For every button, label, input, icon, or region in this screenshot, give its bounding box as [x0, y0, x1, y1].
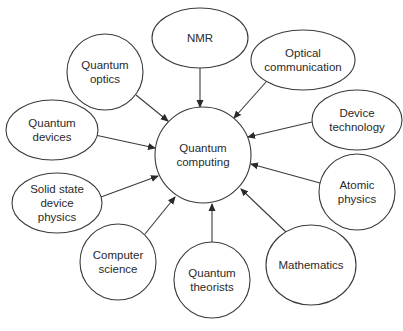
- nodes-group: QuantumcomputingNMROpticalcommunicationD…: [6, 8, 402, 318]
- arrow-device-technology-to-quantum-computing: [248, 122, 312, 137]
- arrow-quantum-devices-to-quantum-computing: [95, 135, 155, 148]
- node-label: Quantum: [188, 267, 235, 279]
- node-label: devices: [33, 131, 72, 143]
- node-label: technology: [329, 121, 385, 133]
- node-shape: [80, 224, 156, 300]
- node-label: Quantum: [81, 59, 128, 71]
- arrow-mathematics-to-quantum-computing: [241, 189, 286, 232]
- node-label: Computer: [93, 249, 144, 261]
- node-device-technology: Devicetechnology: [312, 90, 402, 150]
- node-shape: [312, 90, 402, 150]
- node-quantum-devices: Quantumdevices: [6, 100, 98, 160]
- arrow-computer-science-to-quantum-computing: [145, 197, 175, 234]
- node-label: Quantum: [179, 142, 226, 154]
- node-label: Atomic: [339, 179, 374, 191]
- node-label: Quantum: [28, 117, 75, 129]
- node-label: physics: [338, 193, 377, 205]
- node-computer-science: Computerscience: [80, 224, 156, 300]
- node-label: device: [40, 197, 73, 209]
- node-mathematics: Mathematics: [266, 225, 356, 305]
- node-shape: [319, 154, 395, 230]
- node-atomic-physics: Atomicphysics: [319, 154, 395, 230]
- node-label: NMR: [187, 32, 213, 44]
- node-label: physics: [38, 211, 77, 223]
- arrow-optical-communication-to-quantum-computing: [234, 82, 266, 118]
- node-shape: [251, 30, 355, 90]
- arrow-solid-state-device-physics-to-quantum-computing: [101, 176, 158, 197]
- node-label: computing: [176, 156, 229, 168]
- node-shape: [67, 34, 143, 110]
- arrow-quantum-optics-to-quantum-computing: [136, 95, 168, 121]
- node-label: Mathematics: [278, 259, 343, 271]
- node-optical-communication: Opticalcommunication: [251, 30, 355, 90]
- node-nmr: NMR: [152, 8, 248, 68]
- node-label: science: [99, 263, 138, 275]
- node-label: Solid state: [30, 183, 84, 195]
- arrow-atomic-physics-to-quantum-computing: [251, 164, 320, 183]
- quantum-computing-diagram: QuantumcomputingNMROpticalcommunicationD…: [0, 0, 403, 331]
- node-solid-state-device-physics: Solid statedevicephysics: [12, 173, 102, 233]
- node-shape: [155, 107, 251, 203]
- node-quantum-computing: Quantumcomputing: [155, 107, 251, 203]
- node-label: communication: [264, 61, 341, 73]
- node-shape: [174, 242, 250, 318]
- node-label: theorists: [190, 281, 234, 293]
- node-label: Device: [339, 107, 374, 119]
- node-label: Optical: [285, 47, 321, 59]
- node-quantum-theorists: Quantumtheorists: [174, 242, 250, 318]
- node-label: optics: [90, 73, 120, 85]
- node-quantum-optics: Quantumoptics: [67, 34, 143, 110]
- node-shape: [6, 100, 98, 160]
